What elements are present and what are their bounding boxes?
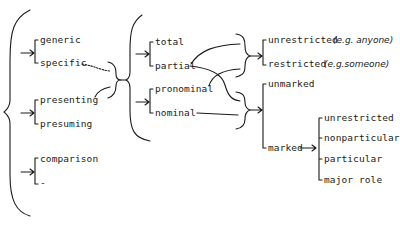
markedness-brace	[236, 92, 250, 129]
partial-to-restriction	[191, 44, 240, 64]
option-comparison: comparison	[40, 153, 98, 164]
entry-arrow-genericity	[21, 50, 34, 56]
bracket-nominality	[150, 89, 153, 113]
option-particular: particular	[324, 153, 382, 164]
bracket-totality	[150, 42, 153, 66]
bracket-marked-sub	[319, 118, 322, 180]
example-restricted: (e.g.someone)	[324, 59, 389, 69]
option-unmarked: unmarked	[268, 78, 315, 89]
restriction-brace	[236, 34, 250, 77]
example-unrestricted: (e.g. anyone)	[333, 35, 393, 45]
markedness-arrow	[250, 107, 262, 113]
join-brace-specific-presenting	[108, 62, 121, 98]
entry-arrow-nominality	[136, 99, 149, 105]
second-brace	[126, 15, 150, 141]
option-restricted: restricted	[268, 58, 326, 69]
bracket-markedness	[263, 84, 266, 148]
option-marked: marked	[268, 142, 303, 153]
option-presuming: presuming	[40, 118, 92, 129]
option-marked-unrestricted: unrestricted	[324, 112, 394, 123]
option-major-role: major role	[324, 174, 382, 185]
entry-arrow-totality	[136, 51, 149, 57]
option-nominal: nominal	[155, 107, 196, 118]
restriction-arrow	[250, 53, 262, 59]
option-specific: specific	[40, 57, 87, 68]
option-partial: partial	[155, 60, 196, 71]
option-comparison-none: -	[40, 177, 46, 188]
option-total: total	[155, 36, 184, 47]
option-pronominal: pronominal	[155, 83, 213, 94]
bracket-comparison	[35, 158, 38, 184]
entry-arrow-orientation	[21, 110, 34, 116]
option-unrestricted: unrestricted	[268, 34, 338, 45]
nominal-to-markedness	[197, 113, 238, 115]
option-nonparticular: nonparticular	[324, 132, 400, 143]
bracket-orientation	[35, 100, 38, 124]
bracket-genericity	[35, 40, 38, 63]
bracket-restriction	[263, 40, 266, 65]
entry-arrow-comparison	[21, 169, 34, 175]
option-generic: generic	[40, 34, 81, 45]
option-presenting: presenting	[40, 94, 98, 105]
system-network-diagram: generic specific presenting presuming co…	[0, 0, 400, 225]
